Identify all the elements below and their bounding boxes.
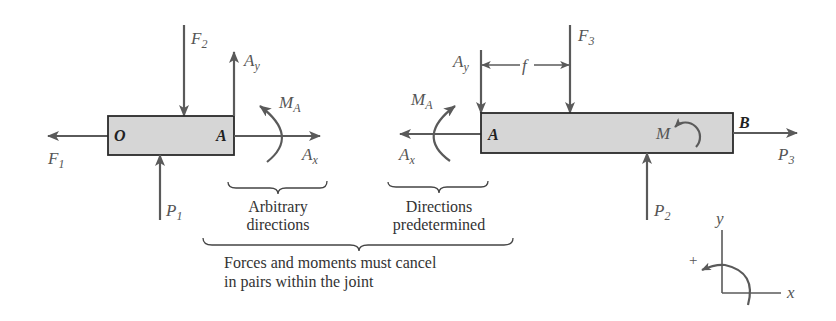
- force-p2-label: P2: [653, 201, 670, 223]
- point-a-label: A: [215, 127, 227, 144]
- force-p3-label: P3: [777, 145, 794, 167]
- x-axis-label: x: [786, 283, 795, 302]
- point-a-right-label: A: [487, 126, 499, 143]
- force-ax-right-label: Ax: [398, 145, 415, 167]
- force-p1-label: P1: [165, 201, 182, 223]
- right-brace: [388, 181, 488, 193]
- positive-sign-label: +: [689, 252, 697, 268]
- force-f3-label: F3: [577, 26, 594, 48]
- left-member: F1 F2 O A Ay Ax MA P1: [47, 25, 320, 223]
- point-o-label: O: [114, 127, 126, 144]
- point-b-label: B: [738, 114, 750, 131]
- force-ay-left-label: Ay: [243, 51, 260, 73]
- left-brace-caption-line1: Arbitrary: [248, 198, 308, 216]
- left-brace-caption-line2: directions: [246, 216, 309, 233]
- dimension-f-label: f: [522, 56, 529, 75]
- positive-rotation-arc-icon: [702, 265, 750, 305]
- moment-ma-right-label: MA: [410, 90, 433, 112]
- force-f1-label: F1: [47, 149, 64, 171]
- right-member: Ax MA Ay f F3 A M B P3 P2: [398, 25, 797, 223]
- force-f2-label: F2: [190, 29, 207, 51]
- bottom-brace-caption-line1: Forces and moments must cancel: [224, 254, 437, 271]
- free-body-diagram: F1 F2 O A Ay Ax MA P1 Ax MA Ay f: [0, 0, 836, 321]
- force-ax-left-label: Ax: [301, 145, 318, 167]
- force-ay-right-label: Ay: [452, 52, 469, 74]
- annotations: Arbitrary directions Directions predeter…: [203, 181, 513, 291]
- right-brace-caption-line2: predetermined: [393, 216, 485, 234]
- coordinate-axes: y x +: [689, 209, 795, 305]
- right-bar: [481, 113, 733, 153]
- bottom-brace-caption-line2: in pairs within the joint: [224, 273, 374, 291]
- y-axis-label: y: [714, 209, 724, 228]
- right-brace-caption-line1: Directions: [406, 198, 473, 215]
- internal-moment-m-label: M: [655, 124, 671, 143]
- moment-ma-left-arc: [260, 106, 282, 162]
- moment-ma-left-label: MA: [278, 93, 301, 115]
- bottom-brace: [203, 238, 513, 251]
- left-brace: [228, 181, 327, 194]
